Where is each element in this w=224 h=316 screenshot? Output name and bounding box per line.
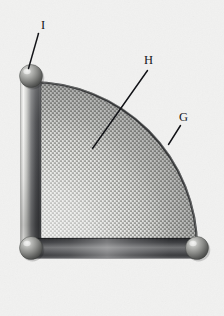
vertical-frame-bar — [21, 72, 42, 250]
label-h: H — [144, 53, 153, 67]
horizontal-frame-bar — [28, 238, 200, 259]
label-g: G — [179, 110, 188, 124]
figure-canvas: I H G — [0, 0, 224, 316]
label-i: I — [41, 18, 45, 32]
technical-drawing: I H G — [0, 0, 224, 316]
